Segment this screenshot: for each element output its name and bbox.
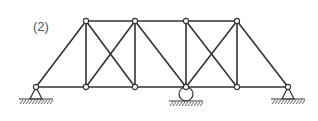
hinge-node xyxy=(132,84,137,89)
truss-supports xyxy=(19,87,305,106)
truss-diagram xyxy=(0,0,318,121)
hinge-node xyxy=(234,84,239,89)
truss-member xyxy=(237,21,288,87)
hinge-node xyxy=(83,18,88,23)
truss-member xyxy=(135,21,186,87)
hinge-node xyxy=(183,84,188,89)
truss-members xyxy=(36,21,288,87)
hinge-node xyxy=(33,84,38,89)
hinge-node xyxy=(83,84,88,89)
truss-member xyxy=(36,21,86,87)
truss-nodes xyxy=(33,18,290,89)
hinge-node xyxy=(285,84,290,89)
hinge-node xyxy=(132,18,137,23)
hinge-node xyxy=(183,18,188,23)
hinge-node xyxy=(234,18,239,23)
